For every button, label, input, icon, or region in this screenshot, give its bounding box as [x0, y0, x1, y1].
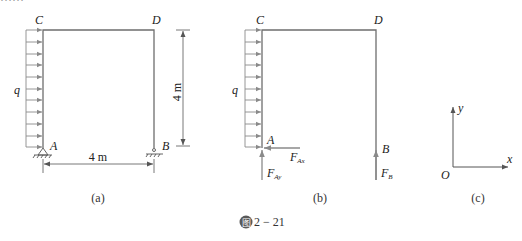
- panel-a-label: (a): [91, 191, 104, 205]
- node-a-a: A: [49, 139, 58, 153]
- frame-a: [43, 30, 154, 148]
- node-c-b: C: [256, 13, 265, 27]
- x-axis-label: x: [506, 152, 513, 166]
- node-b-b: B: [382, 142, 390, 156]
- roller-support-b: [146, 149, 163, 158]
- force-f-ay-label: FAy: [266, 166, 282, 181]
- caption-number: 2 − 21: [254, 215, 285, 229]
- force-f-ax-label: FAx: [289, 150, 306, 165]
- origin-label: O: [441, 168, 450, 182]
- figure-2-21: 4 m 4 m C D A B q (a): [0, 0, 522, 241]
- load-label-b: q: [232, 83, 238, 97]
- distributed-load-a: [26, 30, 42, 147]
- caption-badge-glyph: 图: [242, 218, 251, 228]
- width-dim-label: 4 m: [89, 150, 108, 164]
- distributed-load-b: [245, 30, 261, 147]
- force-f-b-label: FB: [380, 166, 393, 181]
- load-label-a: q: [14, 83, 20, 97]
- node-a-b: A: [266, 133, 275, 147]
- frame-b: [262, 30, 376, 180]
- panel-c: y x O (c): [441, 101, 513, 205]
- node-d-a: D: [151, 13, 161, 27]
- figure-caption: 图 2 − 21: [240, 215, 285, 229]
- node-d-b: D: [373, 13, 383, 27]
- panel-a: 4 m 4 m C D A B q (a): [14, 13, 190, 205]
- y-axis-label: y: [457, 101, 464, 115]
- height-dim-label: 4 m: [170, 82, 184, 101]
- node-b-a: B: [162, 139, 170, 153]
- node-c-a: C: [35, 13, 44, 27]
- panel-c-label: (c): [471, 191, 484, 205]
- panel-b-label: (b): [313, 191, 327, 205]
- panel-b: C D A B q FAx FAy FB (b): [232, 13, 393, 205]
